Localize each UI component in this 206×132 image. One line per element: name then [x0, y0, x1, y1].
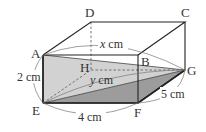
- x-variable: x: [99, 37, 106, 51]
- label-height: 2 cm: [17, 70, 41, 84]
- prism-diagram: A B C D E F G H 2 cm 4 cm 5 cm x cm y cm: [0, 0, 206, 132]
- label-width: 5 cm: [161, 87, 185, 101]
- label-E: E: [32, 103, 40, 118]
- label-y: y cm: [89, 73, 114, 87]
- label-x: x cm: [99, 37, 124, 51]
- x-unit: cm: [108, 37, 123, 51]
- label-B: B: [141, 54, 150, 69]
- label-C: C: [181, 5, 190, 20]
- label-G: G: [187, 63, 196, 78]
- label-F: F: [134, 105, 141, 120]
- label-H: H: [80, 60, 89, 75]
- y-variable: y: [89, 73, 96, 87]
- label-D: D: [85, 5, 94, 20]
- label-length: 4 cm: [78, 110, 102, 124]
- y-unit: cm: [98, 73, 113, 87]
- label-A: A: [31, 46, 41, 61]
